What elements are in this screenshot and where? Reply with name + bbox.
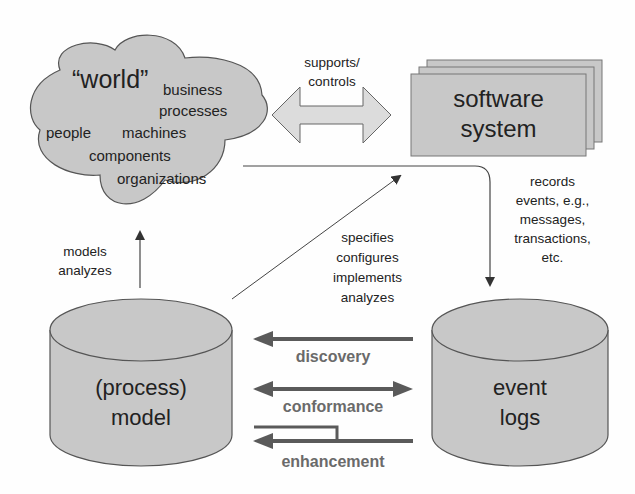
cloud-word-machines: machines (122, 124, 186, 142)
specifies-label: specifies configures implements analyzes (320, 228, 415, 308)
records-line-3: messages, (495, 210, 610, 229)
supports-text: supports/ (300, 53, 364, 72)
discovery-arrow (253, 331, 413, 347)
models-text: models (50, 242, 120, 261)
specifies-text: specifies (320, 228, 415, 248)
records-line-2: events, e.g., (495, 191, 610, 210)
supports-controls-double-arrow (272, 87, 391, 143)
world-title: “world” (72, 64, 148, 94)
implements-text: implements (320, 268, 415, 288)
specifies-analyzes-text: analyzes (320, 288, 415, 308)
analyzes-text: analyzes (50, 261, 120, 280)
records-label: records events, e.g., messages, transact… (495, 172, 610, 267)
configures-text: configures (320, 248, 415, 268)
logs-text: logs (432, 403, 608, 433)
event-text: event (432, 373, 608, 403)
models-analyzes-label: models analyzes (50, 242, 120, 280)
enhancement-label: enhancement (253, 452, 413, 471)
enhancement-arrow (253, 427, 413, 449)
process-model-label: (process) model (50, 373, 232, 433)
cloud-word-people: people (46, 124, 91, 142)
process-mining-diagram: “world” business processes people machin… (0, 0, 635, 494)
software-system-label: software system (411, 84, 586, 144)
event-logs-label: event logs (432, 373, 608, 433)
supports-controls-label: supports/ controls (300, 53, 364, 91)
cloud-word-organizations: organizations (117, 170, 206, 188)
records-line-4: transactions, (495, 229, 610, 248)
records-line-1: records (495, 172, 610, 191)
model-text: model (50, 403, 232, 433)
process-text: (process) (50, 373, 232, 403)
conformance-arrow (253, 381, 413, 397)
cloud-word-components: components (89, 147, 171, 165)
conformance-label: conformance (253, 397, 413, 416)
cloud-word-processes: processes (159, 102, 227, 120)
controls-text: controls (300, 72, 364, 91)
system-text: system (411, 114, 586, 144)
discovery-label: discovery (253, 347, 413, 366)
software-text: software (411, 84, 586, 114)
records-line-5: etc. (495, 248, 610, 267)
cloud-word-business: business (163, 81, 222, 99)
